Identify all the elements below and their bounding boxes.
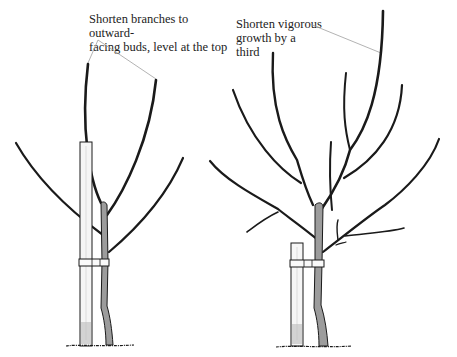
right-tree [210,11,439,347]
right-tree-twig-left-low [247,212,278,232]
right-tree-leader-center-short [330,142,332,210]
right-tree-branch-far-right [323,139,439,252]
tree-illustrations [0,0,457,357]
left-tree-ground [66,345,134,346]
left-tree-branch-outer-right [109,158,183,252]
right-tree-branch-inner [344,73,350,150]
right-annotation-pointer [310,24,381,53]
left-tree [16,40,183,346]
left-tree-tie [79,259,109,266]
right-tree-ground [276,346,352,347]
right-tree-leader-left [273,53,313,205]
left-tree-trunk [101,202,113,345]
pruning-diagram: Shorten branches to outward- facing buds… [0,0,457,357]
right-tree-twig-right-up [337,220,338,240]
right-tree-branch-left-upper [233,90,301,183]
left-annotation-pointer [88,40,156,79]
right-tree-tie [290,260,324,267]
left-tree-leader-right [107,80,156,215]
right-tree-trunk [314,203,328,346]
